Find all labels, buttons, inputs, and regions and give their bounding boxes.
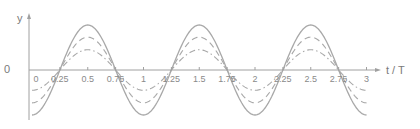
x-tick-label: 1.5 bbox=[193, 74, 206, 84]
x-tick-label: 1.75 bbox=[218, 74, 236, 84]
x-tick-label: 0.75 bbox=[107, 74, 125, 84]
x-tick-label: 0.5 bbox=[81, 74, 94, 84]
x-tick-label: 2.75 bbox=[330, 74, 348, 84]
x-tick-label: 2.25 bbox=[274, 74, 292, 84]
x-tick-label: 1 bbox=[141, 74, 146, 84]
x-tick-label: 0.25 bbox=[51, 74, 69, 84]
x-axis-label: t / T bbox=[386, 64, 405, 76]
y-axis-arrow-icon bbox=[27, 13, 31, 19]
x-tick-label: 2 bbox=[252, 74, 257, 84]
x-tick-label: 2.5 bbox=[304, 74, 317, 84]
x-tick-label: 0 bbox=[33, 74, 38, 84]
y-zero-label: 0 bbox=[4, 63, 10, 75]
x-tick-label: 1.25 bbox=[163, 74, 181, 84]
x-axis-arrow-icon bbox=[375, 68, 381, 72]
wave-chart: 00.250.50.7511.251.51.7522.252.52.753 y … bbox=[0, 0, 420, 129]
x-tick-label: 3 bbox=[364, 74, 369, 84]
y-axis-label: y bbox=[17, 12, 23, 24]
